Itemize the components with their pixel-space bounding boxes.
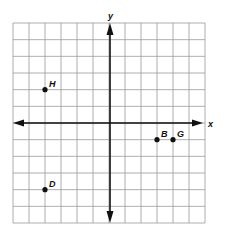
point-label: H [49,79,56,89]
points: HDBG [42,79,184,193]
x-axis-right-arrow-icon [192,120,203,127]
point-G: G [170,129,184,143]
point-marker [42,87,47,92]
x-axis-label: x [207,119,214,129]
x-axis-left-arrow-icon [13,120,24,127]
point-label: G [177,129,184,139]
point-B: B [154,129,168,143]
point-H: H [42,79,56,93]
coordinate-plane: x y HDBG [0,0,226,232]
point-label: B [161,129,168,139]
point-marker [42,187,47,192]
y-axis-down-arrow-icon [107,211,114,223]
point-marker [170,137,175,142]
point-D: D [42,179,56,193]
point-marker [154,137,159,142]
y-axis-up-arrow-icon [107,23,114,35]
point-label: D [49,179,56,189]
y-axis-label: y [107,11,114,21]
